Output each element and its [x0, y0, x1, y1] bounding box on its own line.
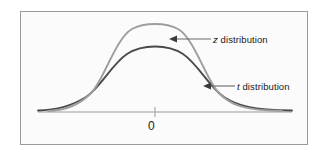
- z-distribution-label: z distribution: [213, 34, 268, 45]
- z-leader-arrowhead-icon: [169, 36, 177, 43]
- t-distribution-curve: [38, 47, 292, 111]
- statistics-distribution-figure: z distribution t distribution 0: [0, 0, 330, 157]
- z-label-text: distribution: [218, 34, 268, 45]
- x-axis-zero-label: 0: [148, 119, 155, 133]
- t-leader-arrowhead-icon: [203, 83, 211, 90]
- distribution-plot: [0, 0, 330, 157]
- t-distribution-label: t distribution: [237, 81, 290, 92]
- t-label-text: distribution: [240, 81, 290, 92]
